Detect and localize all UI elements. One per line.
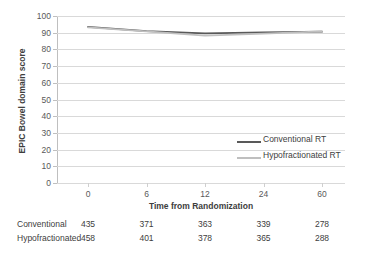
legend-item: Conventional RT xyxy=(237,134,357,150)
x-axis-tick-label: 12 xyxy=(190,189,220,199)
x-axis-tick-label: 60 xyxy=(307,189,337,199)
x-axis-tick-mark xyxy=(205,183,206,187)
risk-table-row: Conventional435371363339278 xyxy=(0,219,365,233)
numbers-at-risk-table: Conventional435371363339278Hypofractiona… xyxy=(0,219,365,264)
legend-line-swatch xyxy=(237,157,261,159)
chart-legend: Conventional RTHypofractionated RT xyxy=(237,134,357,166)
x-axis-tick-label: 0 xyxy=(73,189,103,199)
risk-row-value: 458 xyxy=(73,233,103,243)
x-axis-tick-mark xyxy=(88,183,89,187)
legend-line-swatch xyxy=(237,141,261,143)
chart-plot-container: EPIC Bowel domain score 0102030405060708… xyxy=(0,0,365,212)
x-axis-tick-label: 24 xyxy=(249,189,279,199)
risk-row-label: Conventional xyxy=(17,219,67,229)
risk-row-label: Hypofractionated xyxy=(17,233,81,243)
risk-row-value: 278 xyxy=(307,219,337,229)
x-axis-title: Time from Randomization xyxy=(57,201,345,211)
risk-row-value: 288 xyxy=(307,233,337,243)
risk-row-value: 363 xyxy=(190,219,220,229)
risk-row-value: 401 xyxy=(132,233,162,243)
x-axis-tick-mark xyxy=(147,183,148,187)
legend-label: Hypofractionated RT xyxy=(263,150,341,160)
risk-row-value: 339 xyxy=(249,219,279,229)
risk-row-value: 378 xyxy=(190,233,220,243)
risk-table-row: Hypofractionated458401378365288 xyxy=(0,233,365,247)
data-series-layer xyxy=(0,0,365,212)
legend-label: Conventional RT xyxy=(263,134,326,144)
risk-row-value: 435 xyxy=(73,219,103,229)
risk-row-value: 371 xyxy=(132,219,162,229)
legend-item: Hypofractionated RT xyxy=(237,150,357,166)
x-axis-tick-mark xyxy=(264,183,265,187)
x-axis-tick-mark xyxy=(322,183,323,187)
chart-figure: EPIC Bowel domain score 0102030405060708… xyxy=(0,0,365,264)
risk-row-value: 365 xyxy=(249,233,279,243)
x-axis-tick-label: 6 xyxy=(132,189,162,199)
